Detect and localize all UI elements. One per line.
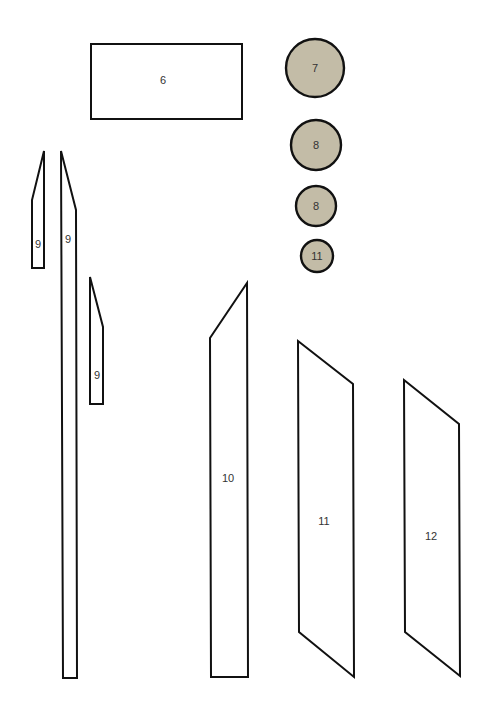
piece-9b: 9 (61, 151, 77, 678)
piece-9a: 9 (32, 151, 44, 268)
circle-7-label: 7 (312, 62, 318, 74)
piece-9a-label: 9 (35, 238, 41, 250)
piece-9b-label: 9 (65, 233, 71, 245)
piece-12-label: 12 (425, 530, 437, 542)
piece-10-label: 10 (222, 472, 234, 484)
circle-8b: 8 (296, 186, 336, 226)
circle-11-label: 11 (311, 250, 322, 262)
piece-10: 10 (210, 283, 248, 677)
piece-9c: 9 (90, 277, 103, 404)
piece-6-label: 6 (160, 74, 166, 86)
piece-9c-label: 9 (94, 369, 100, 381)
piece-11-label: 11 (318, 515, 329, 527)
circle-7: 7 (286, 39, 344, 97)
pattern-diagram: 6 7 8 8 11 9 9 9 10 11 (0, 0, 490, 716)
circle-8b-label: 8 (313, 200, 319, 212)
piece-12: 12 (404, 380, 460, 676)
piece-11: 11 (298, 341, 354, 677)
circle-11: 11 (301, 240, 333, 272)
piece-6: 6 (91, 44, 242, 119)
circle-8a-label: 8 (313, 139, 319, 151)
circle-8a: 8 (291, 120, 341, 170)
